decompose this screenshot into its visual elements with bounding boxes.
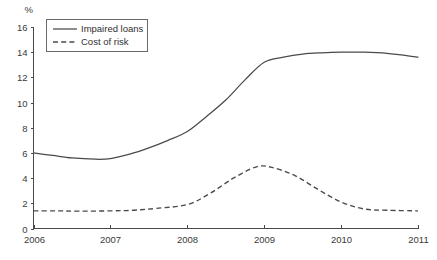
x-axis: 200620072008200920102011 (24, 225, 429, 245)
y-axis: 0246810121416 % (17, 4, 34, 235)
legend-label-cost-of-risk: Cost of risk (81, 36, 129, 47)
x-tick-label: 2009 (254, 234, 275, 245)
series-line-cost-of-risk (34, 166, 419, 211)
x-tick-label: 2008 (177, 234, 198, 245)
x-tick-label: 2006 (24, 234, 45, 245)
legend-label-impaired-loans: Impaired loans (81, 23, 144, 34)
y-tick-label: 2 (22, 198, 27, 209)
y-tick-label: 6 (22, 148, 27, 159)
legend: Impaired loans Cost of risk (47, 20, 148, 52)
y-tick-label: 10 (17, 98, 28, 109)
chart-container: 0246810121416 % 200620072008200920102011… (0, 0, 437, 260)
y-tick-label: 12 (17, 72, 28, 83)
y-tick-label: 16 (17, 22, 28, 33)
series-line-impaired-loans (34, 52, 419, 159)
y-tick-label: 14 (17, 47, 28, 58)
series-layer (34, 52, 419, 211)
line-chart: 0246810121416 % 200620072008200920102011… (0, 0, 437, 260)
y-axis-ticks: 0246810121416 (17, 22, 34, 235)
x-axis-ticks: 200620072008200920102011 (24, 225, 429, 245)
x-tick-label: 2007 (100, 234, 121, 245)
y-tick-label: 8 (22, 123, 27, 134)
y-tick-label: 4 (22, 173, 27, 184)
x-tick-label: 2010 (331, 234, 352, 245)
y-axis-unit-label: % (25, 4, 34, 15)
x-tick-label: 2011 (408, 234, 428, 245)
